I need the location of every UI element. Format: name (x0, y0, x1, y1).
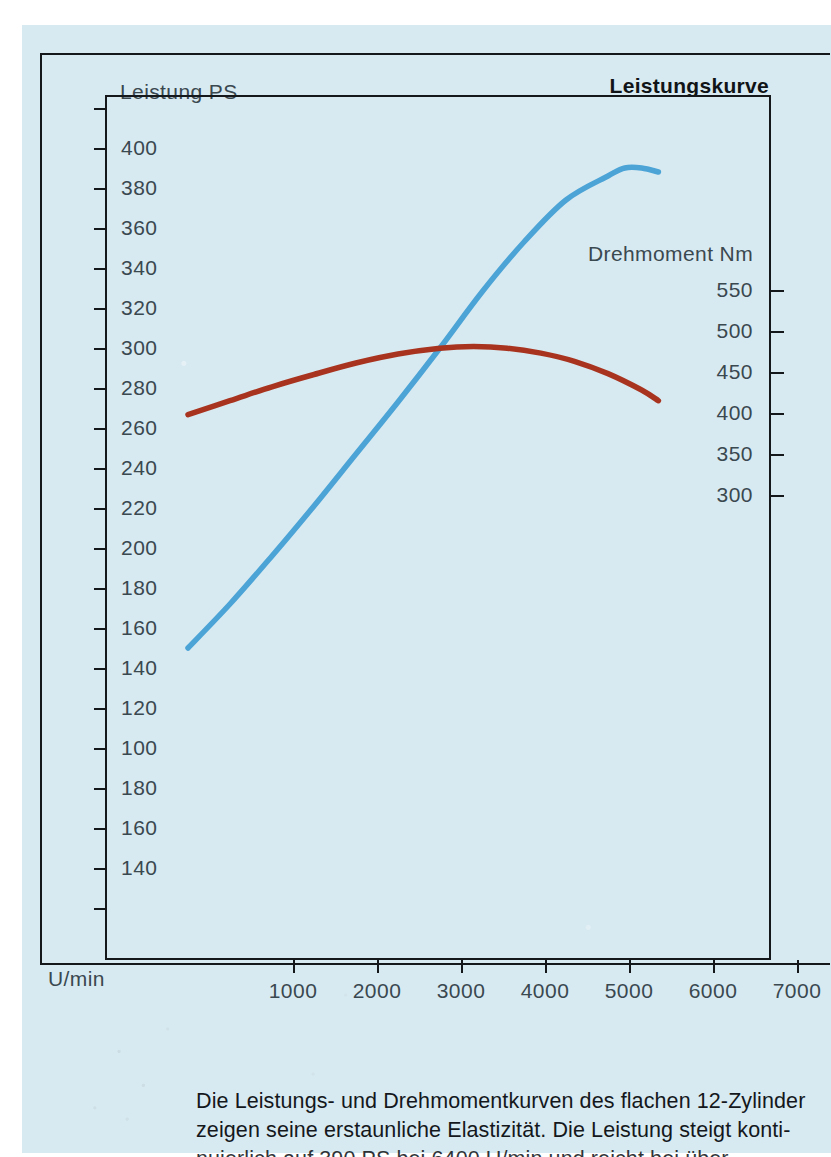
right-tick-label: 300 (716, 483, 753, 507)
left-tick-label: 140 (121, 856, 158, 880)
left-tick-mark (94, 508, 107, 510)
left-tick-label: 320 (121, 296, 158, 320)
left-tick-mark (94, 148, 107, 150)
left-tick-mark (94, 108, 107, 110)
left-tick-mark (94, 308, 107, 310)
x-tick-mark (461, 960, 463, 973)
left-tick-mark (94, 188, 107, 190)
right-tick-mark (771, 372, 784, 374)
left-tick-label: 300 (121, 336, 158, 360)
left-tick-mark (94, 348, 107, 350)
x-tick-mark (629, 960, 631, 973)
left-tick-label: 180 (121, 576, 158, 600)
left-tick-label: 340 (121, 256, 158, 280)
left-tick-label: 260 (121, 416, 158, 440)
left-tick-mark (94, 428, 107, 430)
left-tick-label: 400 (121, 136, 158, 160)
left-tick-mark (94, 708, 107, 710)
caption-line-3: nuierlich auf 390 PS bei 6400 U/min und … (196, 1145, 816, 1157)
left-tick-mark (94, 388, 107, 390)
plot-frame-left-axis (105, 95, 107, 960)
left-tick-label: 140 (121, 656, 158, 680)
x-tick-label: 3000 (437, 979, 486, 1003)
left-tick-mark (94, 548, 107, 550)
plot-frame-top (105, 95, 771, 97)
x-tick-label: 5000 (605, 979, 654, 1003)
left-tick-label: 160 (121, 816, 158, 840)
x-tick-label: 6000 (689, 979, 738, 1003)
caption-text: Die Leistungs- und Drehmomentkurven des … (196, 1087, 816, 1157)
right-tick-label: 550 (716, 278, 753, 302)
left-tick-mark (94, 468, 107, 470)
left-tick-label: 200 (121, 536, 158, 560)
left-tick-mark (94, 828, 107, 830)
x-axis-title: U/min (48, 967, 105, 991)
left-tick-label: 180 (121, 776, 158, 800)
left-tick-mark (94, 908, 107, 910)
plot-frame-bottom-axis (105, 958, 771, 960)
left-tick-label: 360 (121, 216, 158, 240)
left-tick-label: 240 (121, 456, 158, 480)
caption-line-2: zeigen seine erstaunliche Elastizität. D… (196, 1118, 791, 1142)
x-tick-label: 4000 (521, 979, 570, 1003)
left-tick-mark (94, 668, 107, 670)
right-tick-label: 500 (716, 319, 753, 343)
left-tick-mark (94, 868, 107, 870)
x-tick-label: 1000 (269, 979, 318, 1003)
left-tick-label: 100 (121, 736, 158, 760)
left-tick-mark (94, 788, 107, 790)
left-tick-mark (94, 748, 107, 750)
x-tick-label: 7000 (773, 979, 822, 1003)
x-tick-mark (293, 960, 295, 973)
right-tick-mark (771, 413, 784, 415)
x-tick-mark (797, 960, 799, 973)
right-tick-mark (771, 495, 784, 497)
caption-line-1: Die Leistungs- und Drehmomentkurven des … (196, 1089, 805, 1113)
x-tick-mark (713, 960, 715, 973)
right-tick-label: 450 (716, 360, 753, 384)
right-tick-mark (771, 331, 784, 333)
left-tick-mark (94, 628, 107, 630)
left-tick-label: 160 (121, 616, 158, 640)
left-tick-label: 220 (121, 496, 158, 520)
plot-frame-right-axis (769, 95, 771, 960)
left-tick-mark (94, 228, 107, 230)
left-tick-label: 380 (121, 176, 158, 200)
right-tick-mark (771, 454, 784, 456)
left-tick-mark (94, 588, 107, 590)
right-tick-mark (771, 290, 784, 292)
x-tick-mark (377, 960, 379, 973)
x-tick-label: 2000 (353, 979, 402, 1003)
x-tick-mark (545, 960, 547, 973)
plot-area: 4003803603403203002802602402202001801601… (105, 95, 771, 960)
left-tick-mark (94, 268, 107, 270)
right-tick-label: 400 (716, 401, 753, 425)
right-tick-label: 350 (716, 442, 753, 466)
left-tick-label: 280 (121, 376, 158, 400)
left-tick-label: 120 (121, 696, 158, 720)
